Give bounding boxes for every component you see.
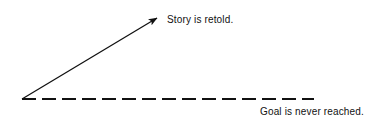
ascending-arrow xyxy=(22,18,157,99)
label-goal-is-never-reached: Goal is never reached. xyxy=(260,106,364,118)
diagram-figure: Story is retold. Goal is never reached. xyxy=(0,0,377,121)
label-story-is-retold: Story is retold. xyxy=(167,14,233,26)
